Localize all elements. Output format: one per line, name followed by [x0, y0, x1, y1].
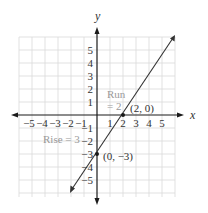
graph: x y −5 −4 −3 −2 −1 1 2 3 4 5 5 4 3 2 1 −…: [0, 0, 208, 213]
y-axis-up-arrow-icon: [95, 27, 100, 34]
y-tick: 2: [88, 83, 94, 95]
y-tick: −4: [81, 161, 93, 173]
x-tick: −5: [23, 117, 35, 129]
point-label-2-0: (2, 0): [130, 102, 154, 115]
x-tick: −3: [49, 117, 61, 129]
y-tick: 3: [88, 70, 94, 82]
x-axis-label: x: [189, 108, 196, 122]
y-axis: [95, 27, 100, 205]
run-annotation-line1: Run: [107, 88, 126, 100]
x-tick: 1: [107, 117, 113, 129]
y-tick: −1: [81, 122, 93, 134]
point-0-neg3: [95, 152, 99, 156]
point-label-0-neg3: (0, −3): [103, 150, 133, 163]
x-tick: 2: [120, 117, 126, 129]
y-axis-down-arrow-icon: [95, 198, 100, 205]
y-tick: 4: [88, 57, 94, 69]
x-tick: 3: [133, 117, 139, 129]
y-tick: −3: [81, 148, 93, 160]
point-2-0: [121, 113, 125, 117]
x-tick: 4: [146, 117, 152, 129]
rise-annotation: Rise = 3: [43, 133, 80, 145]
x-axis-right-arrow-icon: [177, 113, 184, 118]
y-axis-label: y: [94, 9, 101, 23]
y-tick: −5: [81, 174, 93, 186]
y-tick: 5: [88, 44, 94, 56]
x-tick: −4: [36, 117, 48, 129]
y-tick: −2: [81, 135, 93, 147]
run-annotation-line2: = 2: [107, 100, 121, 112]
x-axis-left-arrow-icon: [11, 113, 18, 118]
x-tick: 5: [159, 117, 165, 129]
x-tick: −2: [62, 117, 74, 129]
x-tick-labels: −5 −4 −3 −2 −1 1 2 3 4 5: [23, 117, 165, 129]
y-tick: 1: [88, 96, 94, 108]
